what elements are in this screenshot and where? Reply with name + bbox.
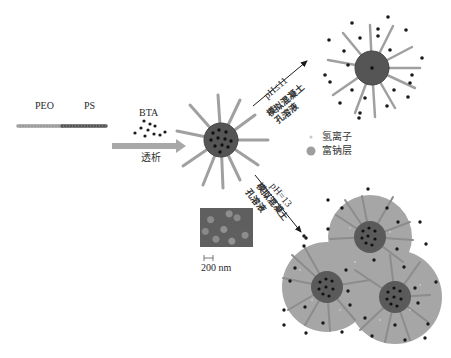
dialysis-label: 透析	[141, 153, 161, 163]
peo-label: PEO	[35, 101, 54, 111]
dialysis-arrow	[112, 139, 186, 153]
micelle-ph-response-diagram: PEO PS BTA 透析 pH≤11 模拟混凝土 孔溶液 pH=13 模拟混凝…	[0, 0, 451, 358]
micelle-cluster-high-ph	[282, 187, 442, 344]
bta-label: BTA	[139, 108, 158, 118]
central-micelle	[177, 95, 268, 188]
diagram-graphics	[0, 0, 451, 358]
sem-micrograph	[200, 208, 253, 247]
micelle-low-ph	[323, 15, 424, 120]
scale-bar-label: 200 nm	[201, 263, 231, 273]
sodium-layer-legend-icon	[307, 147, 316, 156]
hydrogen-ion-legend-icon	[310, 136, 313, 139]
scale-bar	[204, 255, 213, 261]
legend-hydrogen-ion-label: 氢离子	[322, 132, 352, 142]
ps-label: PS	[84, 101, 95, 111]
bta-molecules	[133, 119, 166, 137]
legend-sodium-layer-label: 富钠层	[322, 146, 352, 156]
